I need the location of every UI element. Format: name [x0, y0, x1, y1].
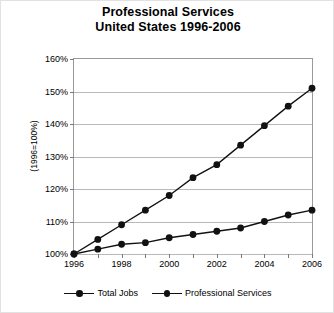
- data-point-marker: [237, 225, 244, 232]
- x-axis-minor-tick: [145, 254, 146, 258]
- data-point-marker: [261, 218, 268, 225]
- data-point-marker: [94, 236, 101, 243]
- data-point-marker: [237, 142, 244, 149]
- y-axis-tick-label: 130%: [45, 152, 68, 162]
- chart-title-line-1: Professional Services: [1, 5, 334, 20]
- legend-line-swatch: [64, 293, 94, 294]
- data-point-marker: [285, 212, 292, 219]
- data-point-marker: [166, 192, 173, 199]
- y-axis-tick-label: 160%: [45, 54, 68, 64]
- x-axis-minor-tick: [98, 254, 99, 258]
- data-point-marker: [213, 161, 220, 168]
- x-axis-tick: [312, 254, 313, 258]
- data-point-marker: [142, 239, 149, 246]
- x-axis-minor-tick: [241, 254, 242, 258]
- data-point-marker: [190, 231, 197, 238]
- legend-item: Professional Services: [152, 288, 272, 298]
- data-point-marker: [71, 251, 78, 258]
- y-axis-title: (1996=100%): [29, 91, 39, 201]
- data-point-marker: [190, 174, 197, 181]
- chart-figure: Professional Services United States 1996…: [0, 0, 334, 313]
- data-point-marker: [309, 85, 316, 92]
- chart-legend: Total JobsProfessional Services: [1, 288, 334, 298]
- x-axis-tick: [217, 254, 218, 258]
- y-axis-tick-label: 140%: [45, 119, 68, 129]
- x-axis-tick: [122, 254, 123, 258]
- data-point-marker: [261, 122, 268, 129]
- plot-area: 100%110%120%130%140%150%160% 19961998200…: [73, 58, 313, 255]
- x-axis-minor-tick: [193, 254, 194, 258]
- x-axis-tick-label: 2002: [207, 259, 227, 269]
- y-axis-tick-label: 120%: [45, 184, 68, 194]
- legend-label: Total Jobs: [97, 288, 138, 298]
- legend-line-swatch: [152, 293, 182, 294]
- y-axis-tick-label: 150%: [45, 87, 68, 97]
- legend-item: Total Jobs: [64, 288, 138, 298]
- series-line: [74, 88, 312, 254]
- x-axis-tick: [169, 254, 170, 258]
- data-point-marker: [94, 246, 101, 253]
- data-series-layer: [74, 59, 312, 254]
- x-axis-tick-label: 1998: [112, 259, 132, 269]
- data-point-marker: [285, 103, 292, 110]
- y-axis-tick-label: 110%: [46, 217, 68, 227]
- data-point-marker: [118, 241, 125, 248]
- legend-marker-icon: [164, 290, 171, 297]
- data-point-marker: [166, 234, 173, 241]
- x-axis-tick-label: 2000: [159, 259, 179, 269]
- chart-title: Professional Services United States 1996…: [1, 5, 334, 35]
- x-axis-minor-tick: [288, 254, 289, 258]
- data-point-marker: [213, 228, 220, 235]
- chart-title-line-2: United States 1996-2006: [1, 20, 334, 35]
- x-axis-tick-label: 1996: [64, 259, 84, 269]
- x-axis-tick-label: 2004: [254, 259, 274, 269]
- legend-label: Professional Services: [185, 288, 272, 298]
- y-axis-tick-label: 100%: [45, 249, 68, 259]
- x-axis-tick: [264, 254, 265, 258]
- data-point-marker: [118, 221, 125, 228]
- data-point-marker: [309, 207, 316, 214]
- x-axis-tick-label: 2006: [302, 259, 322, 269]
- data-point-marker: [142, 207, 149, 214]
- legend-marker-icon: [76, 290, 83, 297]
